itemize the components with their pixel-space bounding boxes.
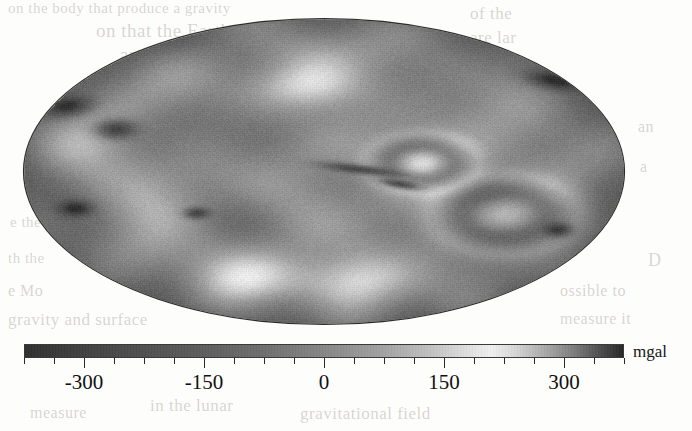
colorbar-minor-tick — [534, 358, 535, 364]
bleed-through-text: on the body that produce a gravity — [8, 0, 231, 17]
colorbar-minor-tick — [144, 358, 145, 364]
colorbar-minor-tick — [114, 358, 115, 364]
colorbar-unit-label: mgal — [633, 342, 667, 362]
gravity-anomaly-map-canvas — [24, 19, 624, 324]
bleed-through-text: a — [640, 158, 648, 176]
colorbar-minor-tick — [174, 358, 175, 364]
colorbar-group: mgal -300-1500150300 — [24, 344, 624, 395]
colorbar-tick-label: -300 — [65, 369, 104, 395]
bleed-through-text: D — [648, 250, 662, 271]
colorbar-minor-tick — [474, 358, 475, 364]
colorbar-major-tick — [84, 358, 85, 368]
bleed-through-text: an — [638, 118, 654, 136]
colorbar-minor-tick — [24, 358, 25, 364]
colorbar-tick-label: 300 — [548, 369, 580, 395]
colorbar-tick-label: 0 — [319, 369, 330, 395]
colorbar-major-tick — [204, 358, 205, 368]
bleed-through-text: measure — [30, 404, 87, 422]
colorbar-tick-label: 150 — [428, 369, 460, 395]
colorbar-minor-tick — [624, 358, 625, 364]
colorbar-minor-tick — [384, 358, 385, 364]
mollweide-map-ellipse — [24, 19, 624, 324]
colorbar-minor-tick — [294, 358, 295, 364]
colorbar-minor-tick — [54, 358, 55, 364]
gravity-anomaly-figure: on the body that produce a gravityon tha… — [0, 0, 692, 431]
colorbar-minor-tick — [414, 358, 415, 364]
colorbar-minor-tick — [264, 358, 265, 364]
colorbar-minor-tick — [504, 358, 505, 364]
colorbar-gradient — [25, 345, 623, 357]
map-panel — [24, 19, 624, 324]
colorbar-tick-label: -150 — [185, 369, 224, 395]
colorbar: mgal — [24, 344, 624, 358]
colorbar-major-tick — [444, 358, 445, 368]
colorbar-major-tick — [564, 358, 565, 368]
colorbar-minor-tick — [354, 358, 355, 364]
colorbar-minor-tick — [594, 358, 595, 364]
colorbar-tick-labels: -300-1500150300 — [24, 369, 624, 395]
bleed-through-text: gravitational field — [300, 404, 431, 424]
colorbar-tick-marks — [24, 358, 624, 369]
colorbar-major-tick — [324, 358, 325, 368]
bleed-through-text: in the lunar — [150, 396, 233, 416]
colorbar-minor-tick — [234, 358, 235, 364]
